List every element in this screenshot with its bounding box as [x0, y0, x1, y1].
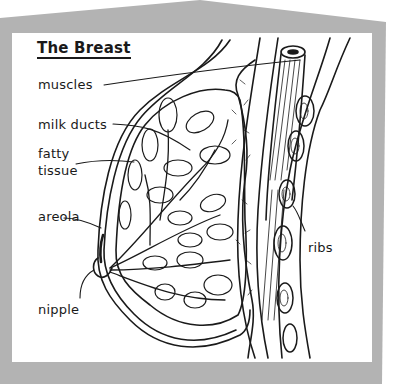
label-ribs: ribs: [308, 240, 333, 255]
label-milk-ducts: milk ducts: [38, 117, 107, 132]
label-areola: areola: [38, 209, 80, 224]
diagram-stage: The Breast muscles milk ducts fatty tiss…: [0, 0, 396, 384]
label-fatty-tissue-line2: tissue: [38, 163, 78, 178]
label-fatty-tissue-line1: fatty: [38, 146, 69, 161]
label-muscles: muscles: [38, 77, 93, 92]
diagram-title: The Breast: [37, 41, 131, 59]
label-nipple: nipple: [38, 302, 79, 317]
